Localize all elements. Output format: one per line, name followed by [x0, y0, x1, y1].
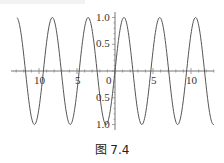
- y-tick-label: 0.5: [96, 92, 110, 103]
- figure-caption: 图 7.4: [0, 140, 224, 157]
- x-tick-label: 0: [106, 75, 112, 86]
- plot-area: [0, 0, 224, 140]
- x-tick-label: 10: [34, 75, 45, 86]
- x-tick-label: 5: [75, 75, 81, 86]
- y-tick-label: 0.5: [96, 38, 110, 49]
- y-tick-label: 1.0: [96, 12, 110, 23]
- x-tick-label: 10: [186, 75, 197, 86]
- x-tick-label: 5: [151, 75, 157, 86]
- y-tick-label: 1.0: [96, 119, 110, 130]
- axes: [11, 12, 214, 130]
